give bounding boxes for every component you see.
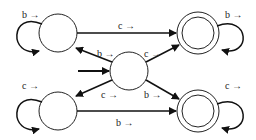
state-bottom-left [39, 92, 77, 130]
label-center-to-bl: c → [101, 89, 118, 100]
state-center-initial [110, 52, 148, 90]
label-tl-to-tr: c → [118, 20, 135, 31]
label-bl-to-br: b → [116, 117, 134, 128]
state-bottom-right-accepting [177, 90, 219, 132]
label-center-to-br: b → [144, 89, 162, 100]
loop-top-right [217, 24, 243, 51]
loop-top-left [17, 21, 42, 51]
state-top-left [39, 14, 77, 52]
automaton-diagram: b → c → b → b → c → c → b → c → b → c → [0, 0, 256, 140]
state-top-right-accepting [177, 12, 219, 54]
label-center-to-tl: b → [97, 48, 115, 59]
loop-bottom-left [17, 99, 42, 129]
label-tl-loop: b → [22, 9, 40, 20]
label-bl-loop: c → [22, 80, 39, 91]
label-center-to-tr: c → [144, 48, 161, 59]
loop-bottom-right [217, 102, 243, 129]
label-br-loop: c → [225, 80, 242, 91]
label-tr-loop: b → [225, 9, 243, 20]
